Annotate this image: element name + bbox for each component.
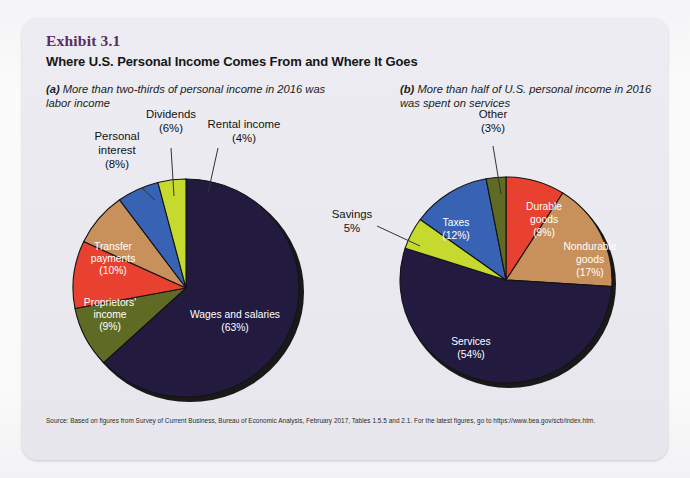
pie-b-label-savings: Savings: [332, 208, 373, 220]
pie-b-label-taxes-pct: (12%): [442, 230, 469, 241]
exhibit-page: Exhibit 3.1 Where U.S. Personal Income C…: [0, 0, 690, 478]
exhibit-card: Exhibit 3.1 Where U.S. Personal Income C…: [22, 18, 668, 460]
pie-b-label-other: Other: [479, 108, 508, 120]
pie-b-label-services: Services: [451, 336, 490, 347]
pie-b-slices: [400, 177, 612, 383]
pie-chart-personal-income-uses: Other (3%) Savings 5% Durable goods (9%)…: [22, 18, 668, 418]
pie-b-label-services-pct: (54%): [457, 349, 484, 360]
pie-b-label-other-pct: (3%): [481, 122, 505, 134]
pie-b-label-durable-line1: Durable: [526, 201, 562, 212]
pie-b-label-nondurable-line2: goods: [576, 254, 604, 265]
pie-b-label-taxes: Taxes: [443, 217, 470, 228]
pie-b-label-savings-pct: 5%: [344, 222, 360, 234]
source-note: Source: Based on figures from Survey of …: [46, 416, 646, 426]
source-divider: [22, 408, 668, 409]
pie-b-label-durable-pct: (9%): [533, 227, 555, 238]
pie-b-label-nondurable-line1: Nondurable: [563, 241, 617, 252]
exhibit-card-inner: Exhibit 3.1 Where U.S. Personal Income C…: [22, 18, 668, 460]
pie-b-label-durable-line2: goods: [530, 214, 558, 225]
pie-b-label-nondurable-pct: (17%): [576, 267, 603, 278]
